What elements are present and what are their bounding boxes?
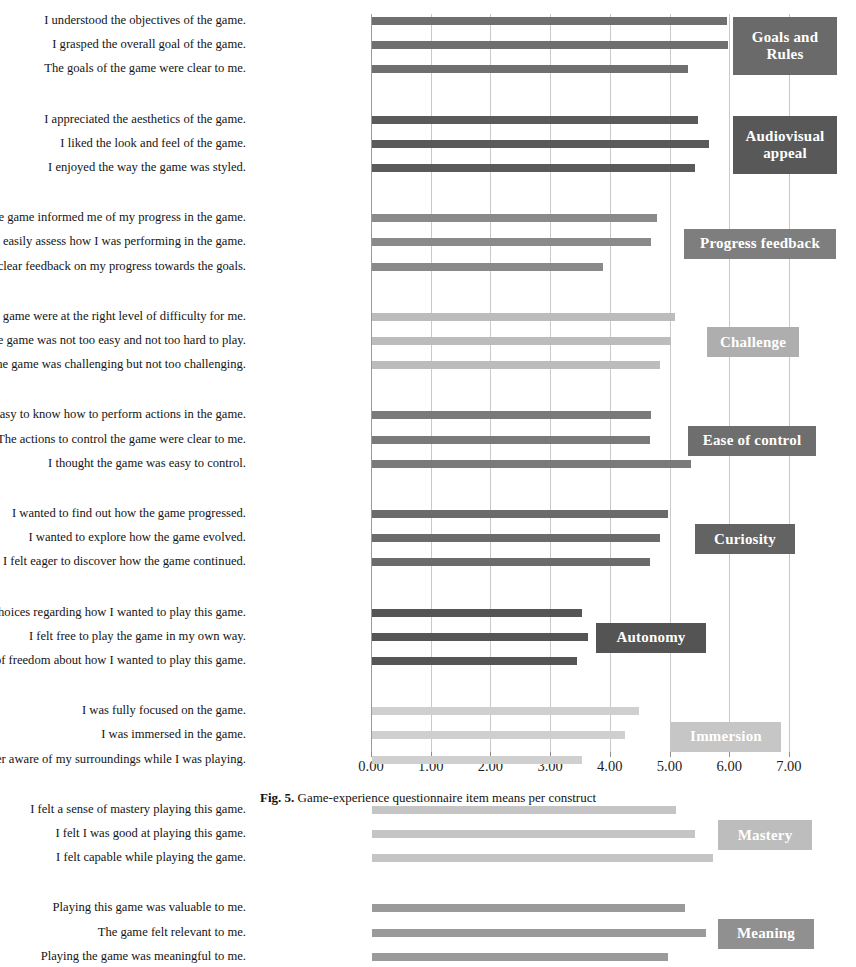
bar — [372, 904, 685, 912]
bar-row: I grasped the overall goal of the game. — [0, 38, 856, 62]
bar-row-label: I was fully focused on the game. — [0, 704, 246, 717]
bar — [372, 140, 709, 148]
bar-row-label: The game felt relevant to me. — [0, 926, 246, 939]
bar — [372, 534, 660, 542]
bar — [372, 214, 657, 222]
group-label-box: Immersion — [671, 722, 781, 752]
bar — [372, 830, 695, 838]
bar-row-label: I thought the game was easy to control. — [0, 457, 246, 470]
bar-row-label: I felt I was good at playing this game. — [0, 827, 246, 840]
bar-row-label: I felt free to play the game in my own w… — [0, 630, 246, 643]
bar — [372, 609, 582, 617]
bar — [372, 806, 676, 814]
bar — [372, 164, 695, 172]
bar — [372, 731, 625, 739]
group-label-box: Ease of control — [688, 426, 816, 456]
bar-row-label: I wanted to explore how the game evolved… — [0, 531, 246, 544]
bar-row: The game was challenging but not too cha… — [0, 358, 856, 382]
bar — [372, 41, 728, 49]
bar — [372, 313, 675, 321]
bar-row: I enjoyed the way the game was styled. — [0, 161, 856, 185]
bar-row-label: Playing this game was valuable to me. — [0, 901, 246, 914]
bar-row: Playing the game was meaningful to me. — [0, 950, 856, 967]
bar — [372, 929, 706, 937]
bar-row-label: The challenges in the game were at the r… — [0, 310, 246, 323]
bar-row-label: It was easy to know how to perform actio… — [0, 408, 246, 421]
bar-row-label: The game was challenging but not too cha… — [0, 358, 246, 371]
bar — [372, 707, 639, 715]
bar-row: I felt a sense of freedom about how I wa… — [0, 654, 856, 678]
bar — [372, 510, 668, 518]
bar-row-label: I enjoyed the way the game was styled. — [0, 161, 246, 174]
bar — [372, 65, 688, 73]
bar — [372, 238, 651, 246]
bar-row: The goals of the game were clear to me. — [0, 62, 856, 86]
bar-row-label: I felt eager to discover how the game co… — [0, 555, 246, 568]
bar-row-label: Playing the game was meaningful to me. — [0, 950, 246, 963]
bar — [372, 436, 650, 444]
bar-row-label: I felt capable while playing the game. — [0, 851, 246, 864]
bar-row-label: The game gave clear feedback on my progr… — [0, 260, 246, 273]
caption-label: Fig. 5. — [260, 790, 294, 805]
bar-row-label: I felt a sense of freedom about how I wa… — [0, 654, 246, 667]
bar — [372, 337, 671, 345]
bar-row: I appreciated the aesthetics of the game… — [0, 113, 856, 137]
caption-text: Game-experience questionnaire item means… — [298, 790, 597, 805]
group-label-box: Mastery — [718, 820, 812, 850]
bar — [372, 361, 660, 369]
group-label-box: Challenge — [707, 327, 799, 357]
group-label-box: Progress feedback — [684, 229, 836, 259]
bar — [372, 756, 582, 764]
bar-row: I felt like I had choices regarding how … — [0, 606, 856, 630]
bar-row-label: The game informed me of my progress in t… — [0, 211, 246, 224]
bar — [372, 854, 713, 862]
bar-row-label: I liked the look and feel of the game. — [0, 137, 246, 150]
bar-row: I felt free to play the game in my own w… — [0, 630, 856, 654]
bar — [372, 657, 577, 665]
bar — [372, 460, 691, 468]
bar-row: I liked the look and feel of the game. — [0, 137, 856, 161]
bar — [372, 558, 650, 566]
bar-row: I felt capable while playing the game. — [0, 851, 856, 875]
group-label-box: Meaning — [718, 919, 814, 949]
bar — [372, 953, 668, 961]
bar — [372, 116, 698, 124]
group-label-box: Autonomy — [596, 623, 706, 653]
bar-row-label: I could easily assess how I was performi… — [0, 235, 246, 248]
bar-row: I thought the game was easy to control. — [0, 457, 856, 481]
bar — [372, 263, 603, 271]
bar-row: I felt eager to discover how the game co… — [0, 555, 856, 579]
bar-row: I understood the objectives of the game. — [0, 14, 856, 38]
bar-row-label: The actions to control the game were cle… — [0, 433, 246, 446]
bar-row-label: The game was not too easy and not too ha… — [0, 334, 246, 347]
bar-row: The game gave clear feedback on my progr… — [0, 260, 856, 284]
group-label-box: Goals and Rules — [733, 17, 837, 75]
group-label-box: Curiosity — [695, 524, 795, 554]
bar-row-label: The goals of the game were clear to me. — [0, 62, 246, 75]
bar-row-label: I was immersed in the game. — [0, 728, 246, 741]
bar-row-label: I understood the objectives of the game. — [0, 14, 246, 27]
bar — [372, 17, 727, 25]
bar-row-label: I felt like I had choices regarding how … — [0, 606, 246, 619]
bar — [372, 633, 588, 641]
bar — [372, 411, 651, 419]
bar-row-label: I wanted to find out how the game progre… — [0, 507, 246, 520]
bar-row-label: I was no longer aware of my surroundings… — [0, 753, 246, 766]
bar-row-label: I grasped the overall goal of the game. — [0, 38, 246, 51]
bar-row: I was no longer aware of my surroundings… — [0, 753, 856, 777]
figure-caption: Fig. 5. Game-experience questionnaire it… — [0, 790, 856, 806]
group-label-box: Audiovisual appeal — [733, 116, 837, 174]
bar-row-label: I appreciated the aesthetics of the game… — [0, 113, 246, 126]
